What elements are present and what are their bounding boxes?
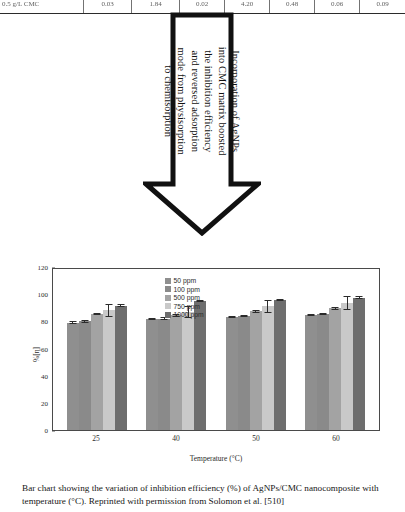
bar[interactable]: [238, 269, 250, 430]
legend-label: 750 ppm: [174, 303, 200, 310]
bar-fill: [182, 312, 194, 430]
x-axis-tick: 50: [221, 434, 291, 443]
error-bar: [81, 320, 88, 323]
legend-label: 1000 ppm: [174, 311, 204, 318]
x-axis-tick: 25: [61, 434, 131, 443]
down-arrow-icon: [143, 12, 261, 236]
y-axis-tick: 100: [38, 292, 49, 299]
chart-legend: 50 ppm100 ppm500 ppm750 ppm1000 ppm: [165, 277, 204, 318]
bar-fill: [353, 298, 365, 430]
legend-item[interactable]: 1000 ppm: [165, 311, 204, 318]
bar-fill: [67, 323, 79, 430]
error-bar: [308, 314, 315, 316]
bar-fill: [115, 306, 127, 430]
bar-fill: [146, 319, 158, 430]
bar-groups: [53, 269, 379, 430]
error-bar: [344, 296, 351, 310]
bar[interactable]: [91, 269, 103, 430]
bar[interactable]: [226, 269, 238, 430]
error-bar: [276, 299, 283, 301]
legend-item[interactable]: 100 ppm: [165, 286, 204, 293]
table-cell: 0.09: [360, 0, 405, 13]
y-axis-tick: 20: [41, 400, 48, 407]
x-axis-label: Temperature (°C): [52, 454, 380, 463]
error-bar: [69, 321, 76, 324]
bar[interactable]: [353, 269, 365, 430]
legend-swatch: [165, 286, 171, 292]
legend-swatch: [165, 278, 171, 284]
legend-item[interactable]: 750 ppm: [165, 303, 204, 310]
bar[interactable]: [67, 269, 79, 430]
bar-fill: [274, 300, 286, 430]
legend-label: 100 ppm: [174, 286, 200, 293]
bar-chart: %[η] 020406080100120 50 ppm100 ppm500 pp…: [18, 262, 390, 475]
legend-swatch: [165, 312, 171, 318]
bar-fill: [91, 314, 103, 430]
bar[interactable]: [146, 269, 158, 430]
y-axis-tick: 0: [45, 428, 49, 435]
table-cell: 0.5 g/L CMC: [0, 0, 84, 13]
bar-fill: [103, 310, 115, 430]
bar[interactable]: [317, 269, 329, 430]
legend-label: 500 ppm: [174, 294, 200, 301]
bar-fill: [317, 314, 329, 430]
error-bar: [356, 296, 363, 298]
bar-fill: [170, 315, 182, 430]
error-bar: [264, 300, 271, 312]
figure-caption: Bar chart showing the variation of inhib…: [22, 482, 384, 507]
bar[interactable]: [341, 269, 353, 430]
bar[interactable]: [250, 269, 262, 430]
bar-fill: [262, 306, 274, 430]
error-bar: [332, 307, 339, 310]
error-bar: [240, 315, 247, 318]
bar-group: [226, 269, 286, 430]
y-axis-ticks: 020406080100120: [18, 262, 52, 431]
error-bar: [93, 313, 100, 316]
y-axis-tick: 80: [41, 319, 48, 326]
bar-fill: [226, 317, 238, 430]
error-bar: [320, 313, 327, 315]
error-bar: [105, 304, 112, 316]
x-axis-tick: 40: [141, 434, 211, 443]
document-page: 0.5 g/L CMC 0.03 1.84 0.02 4.20 0.48 0.0…: [0, 0, 405, 512]
legend-item[interactable]: 50 ppm: [165, 277, 204, 284]
bar[interactable]: [274, 269, 286, 430]
y-axis-tick: 120: [38, 265, 49, 272]
x-axis-tick: 60: [301, 434, 371, 443]
bar-fill: [194, 301, 206, 430]
bar-group: [67, 269, 127, 430]
bar-fill: [329, 308, 341, 430]
bar-fill: [238, 316, 250, 430]
bar[interactable]: [115, 269, 127, 430]
error-bar: [149, 318, 156, 320]
table-cell: 0.03: [84, 0, 132, 13]
callout-arrow: Incorporation of AgNPs into CMC matrix b…: [143, 12, 261, 236]
bar-fill: [158, 319, 170, 430]
legend-swatch: [165, 295, 171, 301]
bar-fill: [341, 303, 353, 430]
bar-fill: [250, 311, 262, 430]
bar-group: [305, 269, 365, 430]
legend-item[interactable]: 500 ppm: [165, 294, 204, 301]
bar[interactable]: [329, 269, 341, 430]
bar[interactable]: [79, 269, 91, 430]
table-cell: 0.06: [315, 0, 360, 13]
bar[interactable]: [262, 269, 274, 430]
legend-label: 50 ppm: [174, 277, 197, 284]
table-cell: 0.48: [270, 0, 315, 13]
error-bar: [117, 304, 124, 307]
bar[interactable]: [103, 269, 115, 430]
bar-fill: [79, 321, 91, 430]
x-axis-tick-labels: 25405060: [52, 434, 380, 443]
error-bar: [228, 316, 235, 318]
y-axis-tick: 60: [41, 346, 48, 353]
y-axis-tick: 40: [41, 373, 48, 380]
legend-swatch: [165, 303, 171, 309]
error-bar: [252, 310, 259, 313]
bar[interactable]: [305, 269, 317, 430]
plot-area: 50 ppm100 ppm500 ppm750 ppm1000 ppm: [52, 268, 380, 431]
bar-fill: [305, 315, 317, 430]
